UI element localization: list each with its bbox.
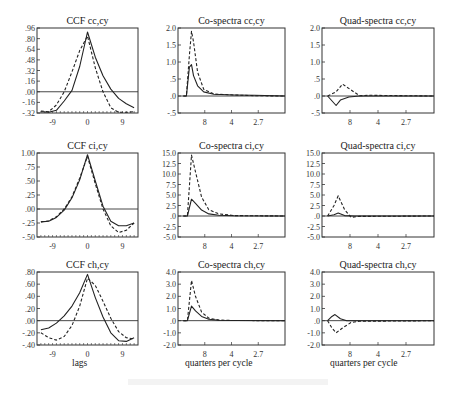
series-solid: [328, 315, 434, 321]
x-tick-label: 2.7: [253, 242, 263, 251]
y-tick-label: .25: [25, 191, 35, 200]
y-tick-label: 4.0: [166, 268, 176, 277]
x-tick-label: 4: [376, 118, 380, 127]
series-dashed: [183, 281, 285, 321]
chart-title: Quad-spectra ch,cy: [339, 259, 416, 270]
x-axis-label-cospectra: quarters per cycle: [185, 358, 253, 368]
y-tick-label: -2.5: [307, 223, 320, 232]
chart-ccf_cc: CCF cc,cy.96.80.64.48.32.16.00-.16-.32-9…: [22, 15, 138, 127]
series-solid: [328, 96, 434, 106]
plot-frame: [322, 28, 434, 113]
y-tick-label: 12.5: [306, 160, 320, 169]
x-tick-label: 2.7: [253, 350, 263, 359]
y-tick-label: 15.0: [162, 149, 176, 158]
chart-title: Co-spectra ch,cy: [198, 259, 265, 270]
y-tick-label: 2.0: [310, 292, 320, 301]
y-tick-label: 1.5: [166, 41, 176, 50]
plot-frame: [37, 153, 138, 237]
plot-frame: [322, 272, 434, 345]
y-tick-label: -.5: [311, 109, 320, 118]
y-tick-label: -2.0: [163, 341, 176, 350]
chart-ccf_ch: CCF ch,cy.80.60.40.20.00-.20-.40-909: [22, 259, 138, 359]
series-solid: [41, 155, 134, 226]
y-tick-label: .80: [25, 35, 35, 44]
y-tick-label: 3.0: [310, 280, 320, 289]
y-tick-label: 2.5: [310, 202, 320, 211]
chart-co_cc: Co-spectra cc,cy2.01.51.0.5.0-.5842.7: [166, 15, 285, 127]
y-tick-label: 4.0: [310, 268, 320, 277]
x-tick-label: -9: [49, 118, 56, 127]
y-tick-label: 1.00: [21, 149, 35, 158]
y-tick-label: .80: [25, 268, 35, 277]
plot-frame: [37, 272, 138, 345]
y-tick-label: 1.0: [310, 305, 320, 314]
y-tick-label: -1.0: [163, 329, 176, 338]
x-tick-label: 2.7: [401, 118, 411, 127]
x-tick-label: 9: [120, 350, 124, 359]
series-solid: [41, 32, 134, 112]
x-tick-label: -9: [49, 242, 56, 251]
chart-quad_cc: Quad-spectra cc,cy2.01.51.0.5.0-.5842.7: [310, 15, 434, 127]
y-tick-label: .60: [25, 280, 35, 289]
series-solid: [183, 199, 285, 216]
series-dashed: [41, 278, 134, 340]
chart-quad_ch: Quad-spectra ch,cy4.03.02.01.0.0-1.0-2.0…: [307, 259, 434, 359]
series-dashed: [328, 196, 434, 218]
y-tick-label: .50: [25, 177, 35, 186]
x-tick-label: 2.7: [253, 118, 263, 127]
y-tick-label: .20: [25, 305, 35, 314]
y-tick-label: 1.0: [166, 58, 176, 67]
chart-title: Co-spectra ci,cy: [199, 140, 264, 151]
series-solid: [183, 306, 285, 321]
y-tick-label: 10.0: [162, 170, 176, 179]
x-tick-label: 8: [203, 242, 207, 251]
y-tick-label: 12.5: [162, 160, 176, 169]
y-tick-label: .75: [25, 163, 35, 172]
x-tick-label: 4: [230, 242, 234, 251]
x-tick-label: 9: [120, 242, 124, 251]
y-tick-label: .96: [25, 24, 35, 33]
x-axis-label-lags: lags: [72, 358, 87, 368]
y-tick-label: 5.0: [310, 191, 320, 200]
y-tick-label: .0: [170, 212, 176, 221]
y-tick-label: -2.0: [307, 341, 320, 350]
chart-quad_ci: Quad-spectra ci,cy15.012.510.07.55.02.5.…: [306, 140, 434, 251]
y-tick-label: 15.0: [306, 149, 320, 158]
y-tick-label: .0: [170, 92, 176, 101]
y-tick-label: .48: [25, 56, 35, 65]
y-tick-label: 2.0: [166, 24, 176, 33]
y-tick-label: 7.5: [166, 181, 176, 190]
chart-title: CCF cc,cy: [66, 15, 108, 26]
y-tick-label: -.25: [22, 219, 35, 228]
y-tick-label: -.50: [22, 233, 35, 242]
chart-title: CCF ch,cy: [66, 259, 109, 270]
plot-frame: [178, 28, 285, 113]
chart-ccf_ci: CCF ci,cy1.00.75.50.25.00-.25-.50-909: [21, 140, 138, 251]
figure-caption: [128, 379, 328, 385]
chart-co_ci: Co-spectra ci,cy15.012.510.07.55.02.5.0-…: [162, 140, 285, 251]
plot-frame: [37, 28, 138, 113]
y-tick-label: -.5: [167, 109, 176, 118]
series-dashed: [328, 84, 434, 96]
x-axis-label-quadspectra: quarters per cycle: [330, 358, 398, 368]
y-tick-label: -2.5: [163, 223, 176, 232]
chart-co_ch: Co-spectra ch,cy4.03.02.01.0.0-1.0-2.084…: [163, 259, 285, 359]
chart-grid: CCF cc,cy.96.80.64.48.32.16.00-.16-.32-9…: [0, 0, 450, 393]
y-tick-label: 5.0: [166, 191, 176, 200]
x-tick-label: 4: [230, 118, 234, 127]
series-solid: [41, 274, 134, 341]
y-tick-label: -5.0: [307, 233, 320, 242]
chart-title: Quad-spectra cc,cy: [340, 15, 417, 26]
y-tick-label: 1.0: [310, 58, 320, 67]
y-tick-label: .00: [25, 205, 35, 214]
y-tick-label: -.16: [22, 98, 35, 107]
x-tick-label: 0: [86, 242, 90, 251]
series-solid: [183, 65, 285, 96]
y-tick-label: -1.0: [307, 329, 320, 338]
x-tick-label: 4: [376, 242, 380, 251]
y-tick-label: .00: [25, 317, 35, 326]
x-tick-label: 2.7: [401, 350, 411, 359]
y-tick-label: 2.0: [310, 24, 320, 33]
y-tick-label: .00: [25, 88, 35, 97]
chart-title: CCF ci,cy: [67, 140, 108, 151]
